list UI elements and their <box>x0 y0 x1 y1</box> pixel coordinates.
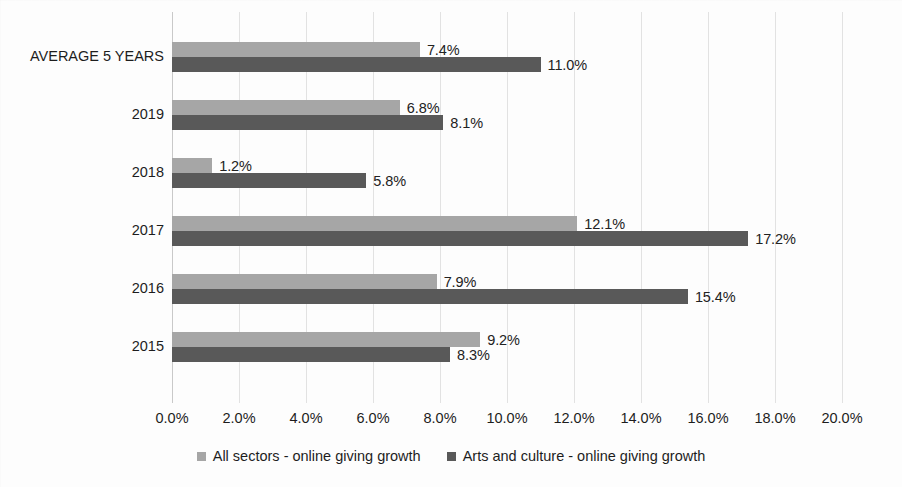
bar-value-label: 15.4% <box>695 289 736 305</box>
x-tick-label: 16.0% <box>687 410 728 426</box>
bar-value-label: 9.2% <box>487 332 520 348</box>
bar-value-label: 8.3% <box>457 347 490 363</box>
x-tick-label: 10.0% <box>486 410 527 426</box>
category-label: 2018 <box>4 164 164 180</box>
x-tick-label: 0.0% <box>155 410 188 426</box>
gridline <box>842 12 843 403</box>
bar-group: 7.9%15.4% <box>172 274 842 305</box>
x-tick-label: 14.0% <box>620 410 661 426</box>
bar-value-label: 7.4% <box>427 42 460 58</box>
category-label: 2016 <box>4 280 164 296</box>
bar-arts-culture: 8.3% <box>172 347 450 362</box>
x-tick-label: 2.0% <box>222 410 255 426</box>
category-label: 2017 <box>4 222 164 238</box>
legend-swatch-icon <box>197 452 206 461</box>
bar-group: 6.8%8.1% <box>172 100 842 131</box>
bar-arts-culture: 8.1% <box>172 115 443 130</box>
bar-value-label: 17.2% <box>755 231 796 247</box>
category-label: AVERAGE 5 YEARS <box>4 48 164 64</box>
bar-group: 12.1%17.2% <box>172 216 842 247</box>
category-label: 2019 <box>4 106 164 122</box>
legend-label: All sectors - online giving growth <box>213 448 421 464</box>
legend-label: Arts and culture - online giving growth <box>463 448 706 464</box>
bar-group: 1.2%5.8% <box>172 158 842 189</box>
chart-legend: All sectors - online giving growthArts a… <box>0 448 902 464</box>
bar-group: 9.2%8.3% <box>172 332 842 363</box>
x-tick-label: 20.0% <box>821 410 862 426</box>
bar-arts-culture: 5.8% <box>172 173 366 188</box>
bar-all-sectors: 7.9% <box>172 274 437 289</box>
plot-area: 7.4%11.0%6.8%8.1%1.2%5.8%12.1%17.2%7.9%1… <box>172 12 842 403</box>
bar-value-label: 8.1% <box>450 115 483 131</box>
bar-all-sectors: 6.8% <box>172 100 400 115</box>
legend-item[interactable]: Arts and culture - online giving growth <box>447 448 706 464</box>
x-tick-label: 4.0% <box>289 410 322 426</box>
bar-all-sectors: 7.4% <box>172 42 420 57</box>
bar-group: 7.4%11.0% <box>172 42 842 73</box>
x-tick-label: 12.0% <box>553 410 594 426</box>
bar-value-label: 7.9% <box>444 274 477 290</box>
bar-value-label: 1.2% <box>219 158 252 174</box>
x-tick-label: 8.0% <box>423 410 456 426</box>
category-label: 2015 <box>4 338 164 354</box>
legend-item[interactable]: All sectors - online giving growth <box>197 448 421 464</box>
bar-all-sectors: 1.2% <box>172 158 212 173</box>
bar-all-sectors: 9.2% <box>172 332 480 347</box>
legend-swatch-icon <box>447 452 456 461</box>
bar-arts-culture: 11.0% <box>172 57 541 72</box>
bar-arts-culture: 17.2% <box>172 231 748 246</box>
x-tick-label: 18.0% <box>754 410 795 426</box>
bar-all-sectors: 12.1% <box>172 216 577 231</box>
bar-chart: 7.4%11.0%6.8%8.1%1.2%5.8%12.1%17.2%7.9%1… <box>0 0 902 487</box>
bar-value-label: 6.8% <box>407 100 440 116</box>
x-tick-label: 6.0% <box>356 410 389 426</box>
bar-arts-culture: 15.4% <box>172 289 688 304</box>
bar-value-label: 5.8% <box>373 173 406 189</box>
bar-value-label: 11.0% <box>548 57 588 73</box>
bar-value-label: 12.1% <box>584 216 625 232</box>
